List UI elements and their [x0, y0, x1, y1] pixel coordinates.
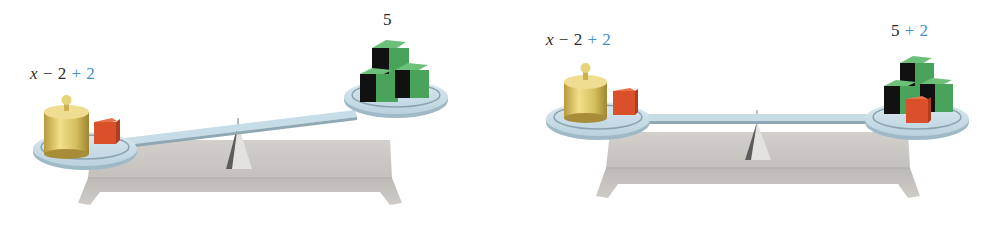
minus-term: − 2 — [554, 30, 587, 49]
scale-2-right-label: 5 + 2 — [891, 21, 929, 41]
added-term: + 2 — [71, 64, 95, 83]
value-term: 5 — [383, 10, 392, 29]
value-term: 5 — [891, 21, 905, 40]
scale-1-illustration — [0, 0, 999, 230]
gold-weight-icon — [564, 63, 607, 123]
red-block-icon — [906, 96, 931, 123]
balance-scales-figure: x − 2 + 2 5 x − 2 + 2 5 + 2 — [0, 0, 999, 230]
minus-term: − 2 — [38, 64, 71, 83]
variable-x: x — [30, 64, 38, 83]
added-term: + 2 — [905, 21, 929, 40]
scale-2-beam — [640, 114, 872, 124]
added-term: + 2 — [587, 30, 611, 49]
scale-1-left-label: x − 2 + 2 — [30, 64, 95, 84]
scale-1-right-label: 5 — [383, 10, 392, 30]
green-block-icon — [395, 63, 429, 98]
gold-weight-icon — [44, 95, 89, 159]
scale-2-left-label: x − 2 + 2 — [546, 30, 611, 50]
red-block-icon — [94, 118, 120, 144]
red-block-icon — [613, 88, 638, 115]
variable-x: x — [546, 30, 554, 49]
